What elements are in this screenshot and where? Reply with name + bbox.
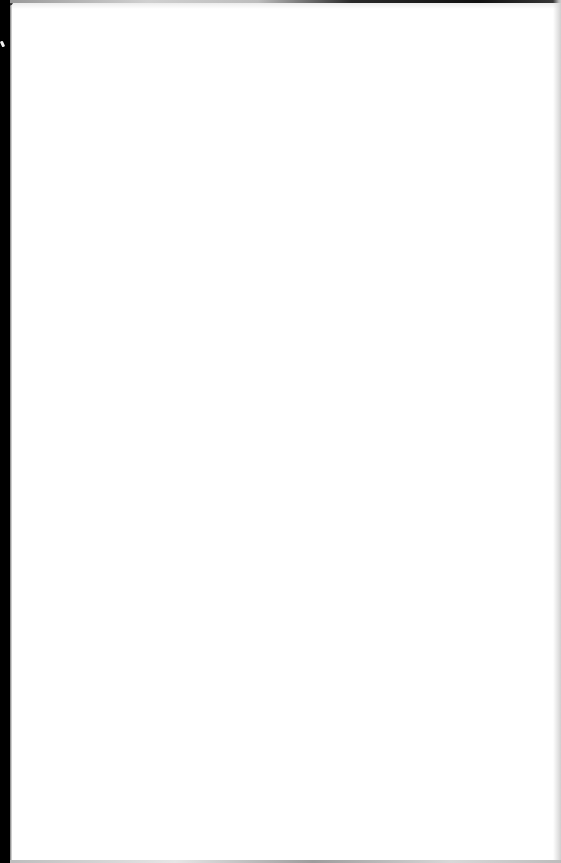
scanner-left-border xyxy=(0,0,10,863)
blank-page-body xyxy=(12,3,553,860)
page-right-edge-shadow xyxy=(553,0,561,863)
scanned-page xyxy=(0,0,561,863)
